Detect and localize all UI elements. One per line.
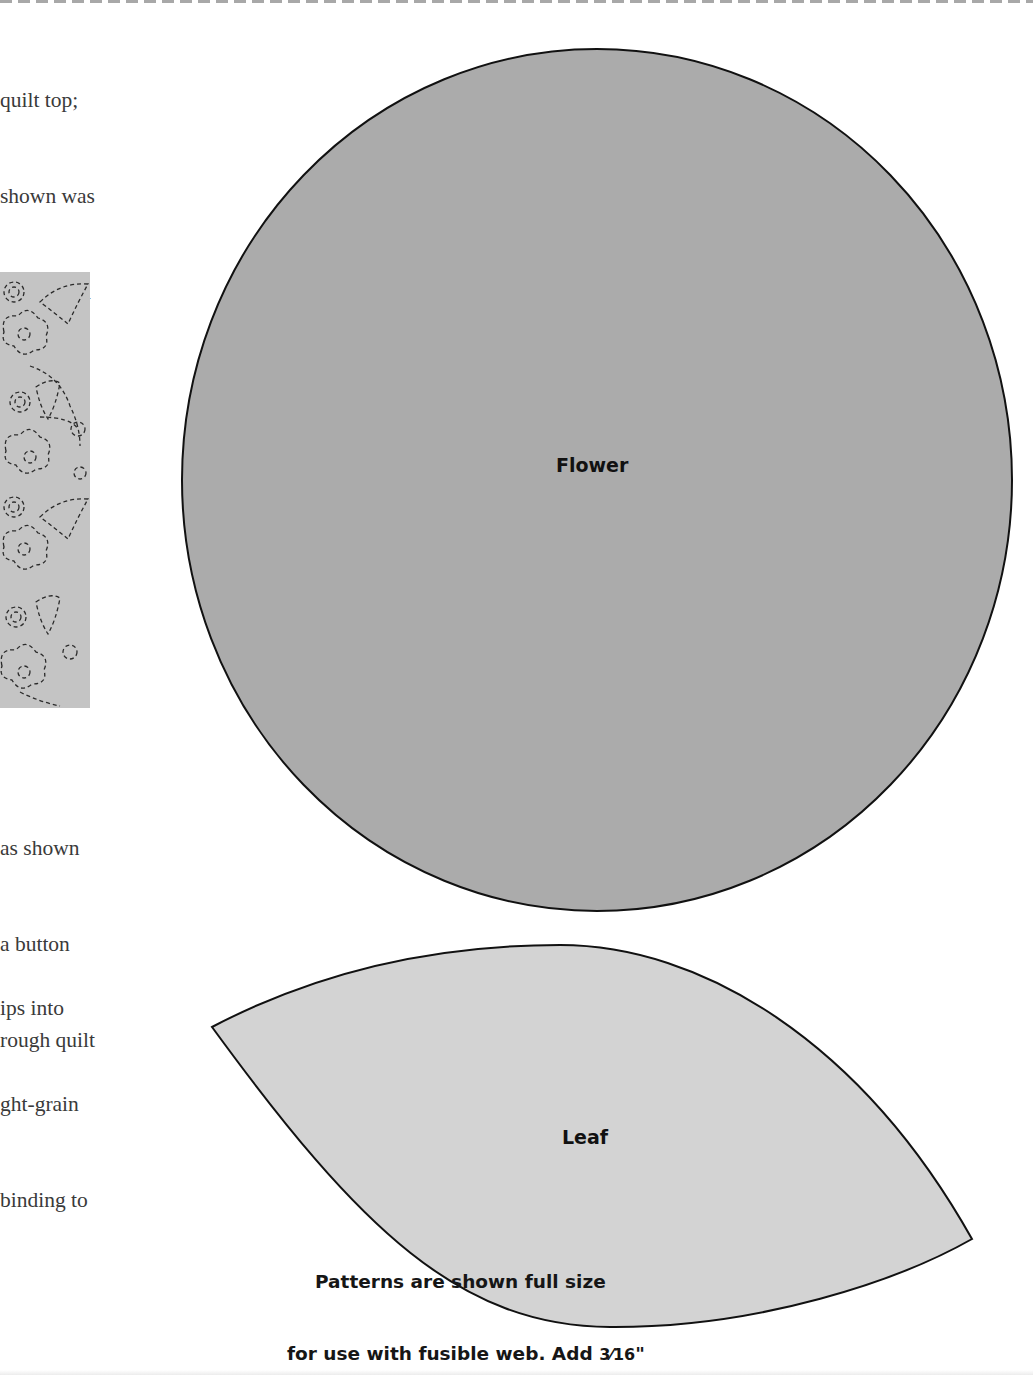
leaf-label: Leaf [562,1126,608,1148]
page-bottom-edge [0,1370,1033,1375]
inch-mark: " [635,1343,645,1364]
pattern-size-note: Patterns are shown full size for use wit… [286,1222,651,1375]
flower-pattern-shape [182,49,1012,911]
note-line-2-text: for use with fusible web. Add [287,1343,599,1364]
flower-label: Flower [556,454,628,476]
note-line-1: Patterns are shown full size [286,1270,651,1294]
seam-fraction: 3⁄16 [599,1345,635,1364]
pattern-shapes [0,0,1033,1375]
note-line-2: for use with fusible web. Add 3⁄16" [286,1342,651,1367]
